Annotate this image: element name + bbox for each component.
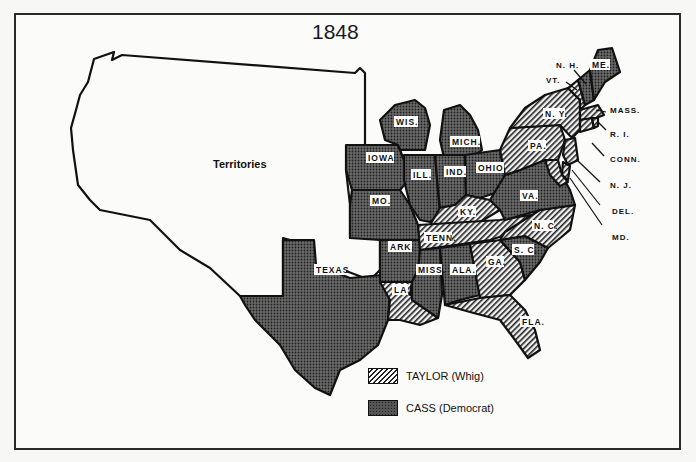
svg-text:ALA.: ALA. (452, 265, 476, 275)
svg-text:KY.: KY. (460, 207, 476, 217)
svg-text:GA.: GA. (488, 257, 506, 267)
callout-vt: VT. (546, 76, 561, 85)
svg-text:IOWA: IOWA (368, 153, 395, 163)
svg-text:ARK.: ARK. (390, 242, 415, 252)
map-title: 1848 (312, 20, 359, 44)
state-new-jersey (563, 138, 578, 165)
svg-text:WIS.: WIS. (396, 117, 418, 127)
svg-text:MISS.: MISS. (418, 265, 446, 275)
callout-del: DEL. (612, 207, 634, 216)
legend-label-whig: TAYLOR (Whig) (406, 370, 484, 382)
svg-text:IND.: IND. (446, 167, 467, 177)
state-maine (590, 48, 620, 100)
dotted-swatch-icon (368, 400, 398, 416)
svg-text:LA.: LA. (394, 285, 411, 295)
callout-nh: N. H. (556, 61, 579, 70)
callout-nj: N. J. (610, 181, 632, 190)
svg-text:N. C.: N. C. (534, 221, 558, 231)
svg-text:TEXAS: TEXAS (316, 265, 349, 275)
state-iowa (346, 145, 410, 190)
svg-text:VA.: VA. (522, 191, 539, 201)
svg-text:MICH.: MICH. (452, 137, 481, 147)
state-rhode-island (592, 118, 598, 128)
election-map: WIS. MICH. IOWA ILL. IND. OHIO MO. ARK. … (0, 0, 696, 462)
svg-text:MO.: MO. (372, 196, 391, 206)
callout-ri: R. I. (610, 130, 630, 139)
svg-text:TENN.: TENN. (426, 233, 457, 243)
svg-text:FLA.: FLA. (522, 317, 545, 327)
legend-item-whig: TAYLOR (Whig) (368, 368, 484, 384)
legend-item-democrat: CASS (Democrat) (368, 400, 494, 416)
svg-text:ILL.: ILL. (413, 170, 432, 180)
svg-text:PA.: PA. (530, 141, 547, 151)
svg-text:N. Y.: N. Y. (545, 109, 568, 119)
svg-text:S. C.: S. C. (514, 245, 538, 255)
territories-label: Territories (213, 158, 267, 170)
svg-text:ME.: ME. (592, 60, 610, 70)
hatched-swatch-icon (368, 368, 398, 384)
svg-text:OHIO: OHIO (478, 163, 504, 173)
legend-label-democrat: CASS (Democrat) (406, 402, 494, 414)
callout-conn: CONN. (610, 155, 641, 164)
callout-md: MD. (612, 233, 630, 242)
callout-mass: MASS. (610, 106, 640, 115)
territories-region (71, 52, 380, 296)
